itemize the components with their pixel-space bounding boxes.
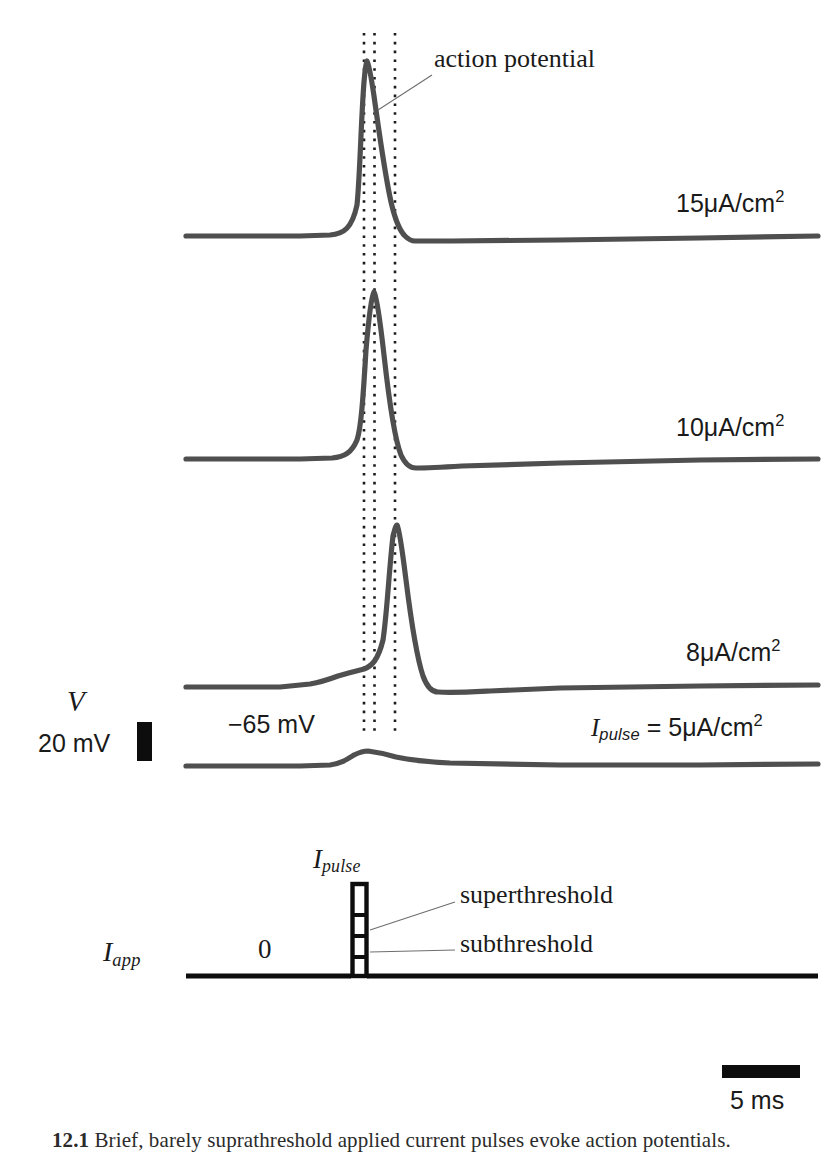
trace-8-uA bbox=[186, 525, 818, 692]
trace-5-uA-subthreshold bbox=[186, 751, 818, 766]
action-potential-leader bbox=[378, 75, 432, 110]
annotation-action-potential: action potential bbox=[434, 46, 595, 72]
trace-label-8-unit: μA/cm bbox=[700, 638, 771, 666]
trace-label-15: 15μA/cm2 bbox=[676, 188, 784, 216]
figure-caption: 12.1 Brief, barely suprathreshold applie… bbox=[52, 1128, 812, 1153]
trace-label-10: 10μA/cm2 bbox=[676, 412, 784, 440]
pulse-label: Ipulse bbox=[313, 846, 361, 876]
trace-label-10-value: 10 bbox=[676, 413, 704, 441]
trace-label-5-equals: = bbox=[640, 713, 669, 741]
trace-label-5-unit: μA/cm bbox=[682, 713, 753, 741]
trace-label-15-unit: μA/cm bbox=[704, 189, 775, 217]
trace-label-5-subthreshold: Ipulse = 5μA/cm2 bbox=[591, 712, 763, 743]
voltage-axis-symbol: V bbox=[67, 687, 85, 716]
trace-label-10-unit: μA/cm bbox=[704, 413, 775, 441]
trace-label-8-value: 8 bbox=[686, 638, 700, 666]
trace-label-15-exponent: 2 bbox=[775, 187, 784, 205]
pulse-label-subscript: pulse bbox=[322, 856, 361, 876]
time-scale-bar bbox=[722, 1065, 800, 1078]
pulse-label-base: I bbox=[313, 844, 322, 874]
trace-label-5-value: 5 bbox=[668, 713, 682, 741]
annotation-subthreshold: subthreshold bbox=[460, 931, 593, 957]
annotation-superthreshold: superthreshold bbox=[460, 882, 613, 908]
time-scale-label: 5 ms bbox=[730, 1088, 784, 1113]
trace-label-8-exponent: 2 bbox=[771, 636, 780, 654]
figure-caption-text: Brief, barely suprathreshold applied cur… bbox=[95, 1128, 731, 1152]
current-axis-symbol-subscript: app bbox=[112, 950, 140, 970]
trace-label-5-subscript: pulse bbox=[599, 725, 639, 743]
figure-caption-number: 12.1 bbox=[52, 1128, 89, 1152]
trace-10-uA bbox=[186, 292, 818, 468]
voltage-scale-label: 20 mV bbox=[38, 731, 110, 756]
resting-potential-label: −65 mV bbox=[228, 712, 315, 737]
current-zero-label: 0 bbox=[258, 936, 272, 963]
trace-label-5-exponent: 2 bbox=[754, 711, 763, 729]
trace-label-10-exponent: 2 bbox=[775, 411, 784, 429]
current-axis-symbol: Iapp bbox=[103, 938, 141, 969]
trace-label-8: 8μA/cm2 bbox=[686, 637, 780, 665]
current-axis-symbol-base: I bbox=[103, 936, 112, 967]
voltage-scale-bar bbox=[137, 722, 152, 761]
trace-label-15-value: 15 bbox=[676, 189, 704, 217]
